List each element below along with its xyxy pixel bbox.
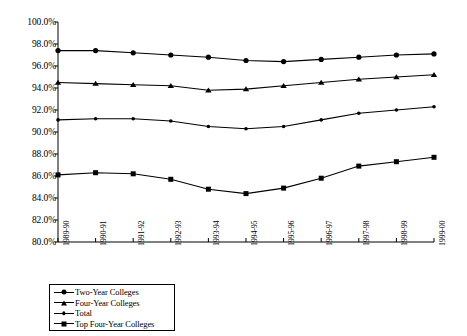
legend-item-label: Two-Year Colleges (75, 287, 139, 297)
x-axis-tick-label: 1993-94 (212, 221, 221, 246)
x-axis-tick-label: 1992-93 (174, 221, 183, 246)
x-axis-tick-label: 1994-95 (250, 221, 259, 246)
x-axis-tick-label: 1989-90 (62, 221, 71, 246)
x-axis-tick-label: 1998-99 (400, 221, 409, 246)
legend-marker-circle-icon (53, 287, 75, 297)
x-axis-tick-label: 1995-96 (287, 221, 296, 246)
chart-legend: Two-Year CollegesFour-Year CollegesTotal… (49, 284, 175, 331)
line-chart: 100.0%98.0%96.0%94.0%92.0%90.0%88.0%86.0… (0, 0, 467, 336)
x-axis-tick-label: 1990-91 (99, 221, 108, 246)
legend-item[interactable]: Two-Year Colleges (53, 287, 171, 298)
legend-marker-glyph (62, 290, 67, 295)
legend-item-label: Four-Year Colleges (75, 298, 139, 308)
legend-marker-glyph (61, 300, 67, 305)
legend-item[interactable]: Four-Year Colleges (53, 298, 171, 309)
legend-item[interactable]: Top Four-Year Colleges (53, 319, 171, 330)
legend-item[interactable]: Total (53, 308, 171, 319)
legend-item-label: Top Four-Year Colleges (75, 319, 154, 329)
x-axis-tick-label: 1996-97 (325, 221, 334, 246)
legend-marker-glyph (62, 312, 65, 315)
x-axis-tick-label: 1997-98 (362, 221, 371, 246)
x-axis-tick-label: 1999-00 (438, 221, 447, 246)
legend-marker-triangle-icon (53, 298, 75, 308)
legend-marker-glyph (62, 321, 67, 326)
x-axis-tick-label: 1991-92 (137, 221, 146, 246)
legend-marker-dot-icon (53, 308, 75, 318)
legend-marker-square-icon (53, 319, 75, 329)
legend-item-label: Total (75, 308, 92, 318)
